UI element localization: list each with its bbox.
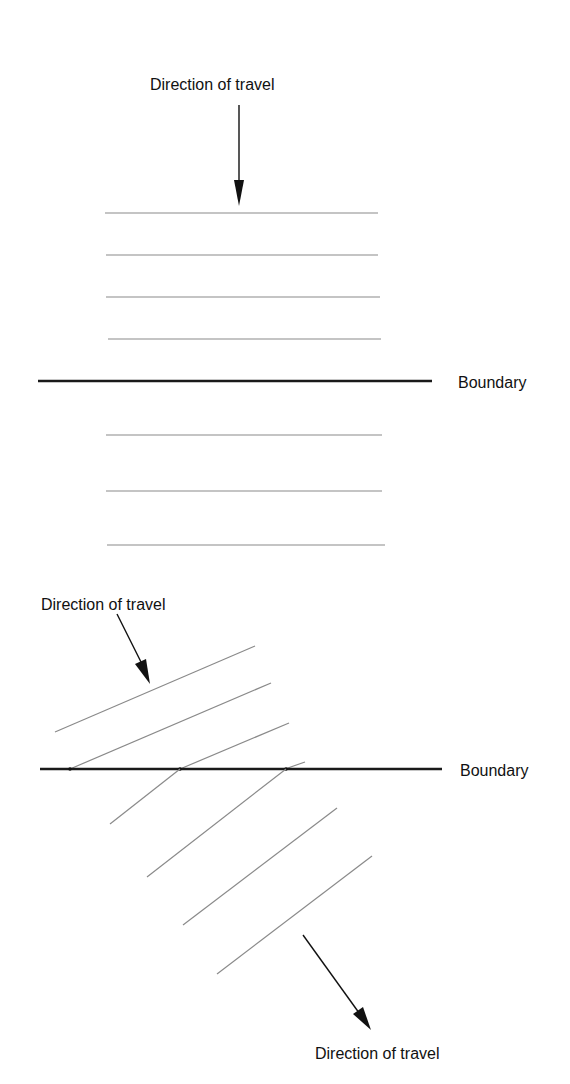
- wavefront-line: [70, 683, 271, 769]
- refracted-wavefronts: [110, 769, 372, 974]
- bottom-panel: Direction of travel Boundary: [40, 596, 529, 1062]
- refracted-direction-label: Direction of travel: [315, 1045, 440, 1062]
- down-arrow-icon: [234, 105, 244, 206]
- wavefront-line: [110, 769, 180, 824]
- top-incident-wavefronts: [105, 213, 381, 339]
- incident-arrow-icon: [117, 614, 150, 684]
- top-boundary-label: Boundary: [458, 374, 527, 391]
- refraction-diagram: Direction of travel Boundary Direction o…: [0, 0, 570, 1084]
- wavefront-line: [147, 769, 286, 877]
- wavefront-line: [217, 856, 372, 974]
- wavefront-line: [183, 808, 337, 925]
- incident-direction-label: Direction of travel: [41, 596, 166, 613]
- top-transmitted-wavefronts: [106, 435, 385, 545]
- top-panel: Direction of travel Boundary: [38, 76, 527, 545]
- wavefront-line: [55, 646, 255, 732]
- refracted-arrow-icon: [303, 935, 371, 1030]
- oblique-incident-wavefronts: [55, 646, 305, 769]
- bottom-boundary-label: Boundary: [460, 762, 529, 779]
- top-direction-label: Direction of travel: [150, 76, 275, 93]
- wavefront-line: [180, 723, 289, 769]
